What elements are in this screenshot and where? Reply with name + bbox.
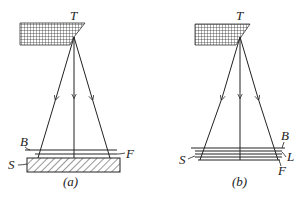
target-label: T: [236, 8, 244, 23]
caption-a: (a): [63, 174, 78, 189]
panel-b: T B L S F (b): [179, 8, 294, 189]
label-l: L: [286, 149, 294, 164]
label-b: B: [281, 128, 289, 143]
label-b: B: [20, 134, 28, 149]
caption-b: (b): [232, 174, 247, 189]
x-ray-beams: [200, 37, 278, 160]
diagram: T B F S (a) T: [0, 0, 304, 200]
substrate: [27, 158, 120, 172]
label-s: S: [8, 157, 15, 172]
label-f: F: [277, 163, 287, 178]
label-s: S: [179, 152, 186, 167]
target-label: T: [70, 8, 78, 23]
label-f: F: [125, 146, 135, 161]
panel-a: T B F S (a): [8, 8, 135, 189]
x-ray-beams: [38, 37, 110, 158]
